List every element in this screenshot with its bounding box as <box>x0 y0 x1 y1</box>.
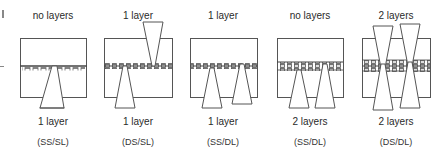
disc-layer-diagram <box>0 0 443 157</box>
panel-5-disc <box>362 24 431 110</box>
panel-4-disc <box>277 39 344 109</box>
panel-3-disc <box>190 39 258 109</box>
panel-1-disc <box>20 39 87 109</box>
panel-2-disc <box>104 22 173 108</box>
